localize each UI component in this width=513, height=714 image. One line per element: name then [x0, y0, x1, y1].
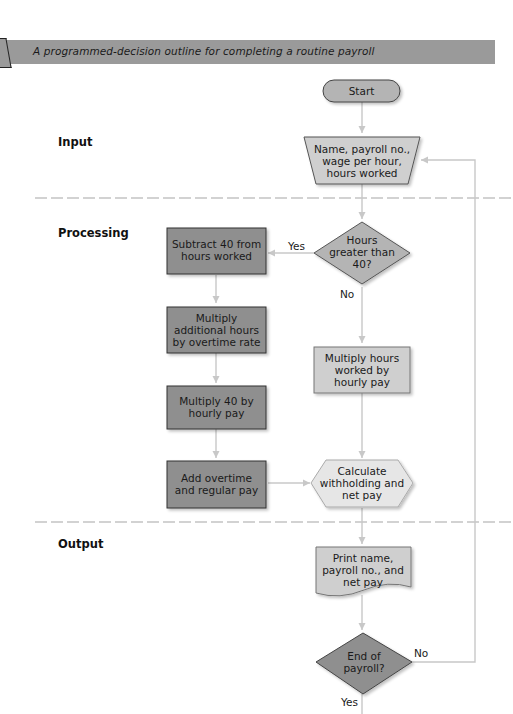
- node-hours-line-2: greater than: [329, 246, 395, 258]
- node-add-pay-line-1: Add overtime: [181, 472, 252, 484]
- node-print-line-1: Print name,: [333, 552, 394, 564]
- node-end-line-1: End of: [347, 650, 381, 662]
- node-hours-line-1: Hours: [347, 234, 378, 246]
- node-multiply-hours-line-2: worked by: [335, 364, 389, 376]
- edge-label-hours-no: No: [340, 288, 354, 300]
- node-multiply-40-line-2: hourly pay: [189, 407, 245, 419]
- node-subtract-line-1: Subtract 40 from: [172, 238, 261, 250]
- node-calculate-line-1: Calculate: [337, 465, 386, 477]
- node-end-line-2: payroll?: [343, 662, 384, 674]
- node-input-line-2: wage per hour,: [322, 155, 402, 167]
- node-calculate-line-3: net pay: [342, 489, 382, 501]
- node-multiply-overtime-line-3: by overtime rate: [172, 336, 260, 348]
- node-subtract-line-2: hours worked: [181, 250, 252, 262]
- node-multiply-40-line-1: Multiply 40 by: [179, 395, 253, 407]
- node-start-label: Start: [349, 85, 375, 97]
- node-multiply-hours-line-1: Multiply hours: [325, 352, 399, 364]
- node-input-line-3: hours worked: [326, 167, 397, 179]
- node-add-pay-line-2: and regular pay: [175, 484, 258, 496]
- node-multiply-overtime-line-2: additional hours: [174, 324, 259, 336]
- node-hours-line-3: 40?: [353, 258, 372, 270]
- node-input-line-1: Name, payroll no.,: [314, 143, 410, 155]
- node-print-line-3: net pay: [343, 576, 383, 588]
- edge-label-end-no: No: [414, 647, 428, 659]
- node-calculate-line-2: withholding and: [320, 477, 404, 489]
- flowchart-canvas: Start Name, payroll no., wage per hour, …: [0, 0, 513, 714]
- node-print-line-2: payroll no., and: [322, 564, 404, 576]
- node-multiply-hours-line-3: hourly pay: [334, 376, 390, 388]
- node-multiply-overtime-line-1: Multiply: [196, 312, 237, 324]
- edge-label-end-yes: Yes: [340, 696, 358, 708]
- edge-label-hours-yes: Yes: [287, 240, 305, 252]
